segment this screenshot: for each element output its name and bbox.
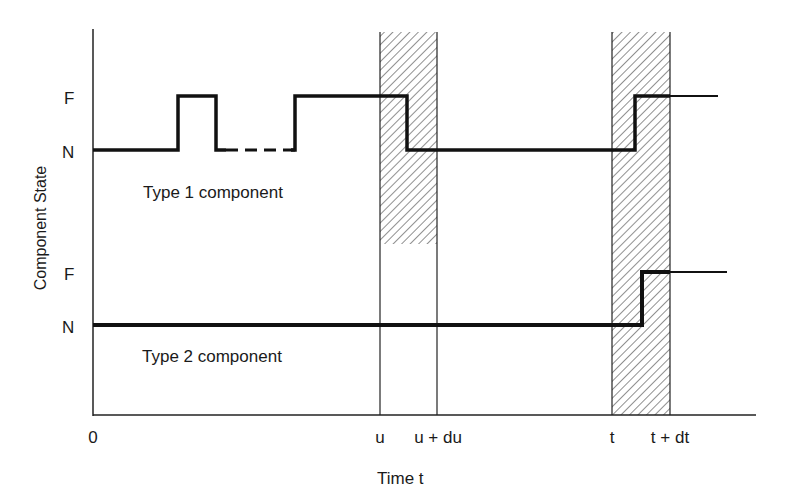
tick-label-t-plus-dt: t + dt: [651, 428, 690, 447]
type2-normal-label: N: [62, 318, 74, 337]
type2-failed-label: F: [64, 265, 74, 284]
y-axis-title: Component State: [32, 166, 49, 291]
tick-label-u-plus-du: u + du: [414, 428, 462, 447]
tick-label-u: u: [375, 428, 384, 447]
interval-band-t: [612, 32, 670, 415]
tick-label-zero: 0: [88, 428, 97, 447]
type1-normal-label: N: [62, 143, 74, 162]
type2-component-label: Type 2 component: [142, 347, 282, 366]
reliability-timing-diagram: F N F N Type 1 component Type 2 componen…: [0, 0, 793, 504]
tick-label-t: t: [610, 428, 615, 447]
type1-failed-label: F: [64, 89, 74, 108]
type1-component-label: Type 1 component: [143, 183, 283, 202]
x-axis-title: Time t: [377, 469, 424, 488]
